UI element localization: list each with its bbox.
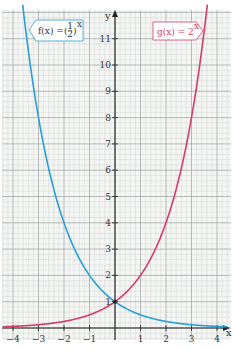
y-tick-label: 9	[105, 86, 111, 96]
f-label-den: 2	[67, 29, 73, 39]
x-tick-label: −2	[57, 334, 70, 344]
y-tick-label: 4	[105, 218, 111, 228]
x-axis-label: x	[226, 327, 232, 338]
y-tick-label: 6	[105, 165, 111, 175]
g-label-exp: x	[194, 21, 199, 31]
f-label-text: f(x) =	[38, 26, 64, 36]
f-label: f(x) = (12)x	[29, 19, 83, 41]
x-tick-label: 1	[138, 334, 144, 344]
y-axis-label: y	[104, 10, 111, 21]
f-label-exp: x	[77, 19, 82, 29]
y-tick-label: 2	[105, 270, 111, 280]
y-tick-label: 7	[105, 139, 111, 149]
exponential-chart: xy−4−3−2−112341234567891011 f(x) = (12)x…	[0, 0, 233, 350]
f-label-paren-close: )	[73, 26, 77, 36]
x-tick-label: 2	[163, 334, 169, 344]
x-tick-label: 4	[214, 334, 220, 344]
x-tick-label: −1	[83, 334, 96, 344]
y-tick-label: 11	[100, 34, 111, 44]
y-tick-label: 8	[105, 113, 111, 123]
y-tick-label: 1	[105, 297, 111, 307]
x-tick-label: −3	[32, 334, 46, 344]
g-label-text: g(x) = 2	[157, 27, 194, 37]
x-tick-label: −4	[6, 334, 20, 344]
x-tick-label: 3	[189, 334, 195, 344]
intersection-point	[113, 300, 117, 304]
g-label: g(x) = 2x	[153, 21, 203, 40]
y-tick-label: 3	[105, 244, 111, 254]
y-tick-label: 5	[105, 192, 111, 202]
y-tick-label: 10	[100, 60, 112, 70]
